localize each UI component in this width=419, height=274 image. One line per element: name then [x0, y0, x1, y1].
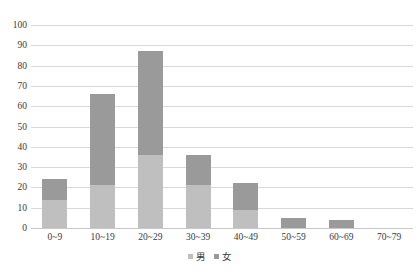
bar-group: [377, 25, 402, 228]
bar-segment-female: [281, 218, 306, 228]
y-axis-tick-label: 0: [0, 223, 27, 233]
y-axis-tick-label: 30: [0, 162, 27, 172]
bar-segment-male: [233, 210, 258, 228]
x-axis-tick-label: 10~19: [79, 231, 127, 243]
x-axis-tick-label: 0~9: [31, 231, 79, 243]
x-axis-tick-label: 20~29: [127, 231, 175, 243]
bar-stack: [329, 220, 354, 228]
bar-segment-male: [90, 185, 115, 228]
bar-group: [186, 25, 211, 228]
y-axis: 1009080706050403020100: [0, 25, 27, 228]
legend-label: 男: [196, 251, 206, 262]
bar-stack: [233, 183, 258, 228]
bar-stack: [138, 51, 163, 228]
bar-group: [42, 25, 67, 228]
bar-segment-female: [186, 155, 211, 185]
y-axis-tick-label: 70: [0, 81, 27, 91]
y-axis-tick-label: 60: [0, 101, 27, 111]
y-axis-tick-label: 80: [0, 61, 27, 71]
bar-segment-female: [138, 51, 163, 155]
plot-area: [31, 25, 413, 228]
x-axis-tick-label: 50~59: [270, 231, 318, 243]
x-axis-tick-label: 30~39: [174, 231, 222, 243]
legend-label: 女: [222, 251, 232, 262]
bar-stack: [281, 218, 306, 228]
bar-segment-male: [138, 155, 163, 228]
y-axis-tick-label: 100: [0, 20, 27, 30]
bar-group: [233, 25, 258, 228]
bar-stack: [90, 94, 115, 228]
bars-layer: [31, 25, 413, 228]
x-axis: 0~910~1920~2930~3940~4950~5960~6970~79: [31, 231, 413, 245]
bar-group: [281, 25, 306, 228]
gridline: [31, 228, 413, 229]
stacked-bar-chart: 1009080706050403020100 0~910~1920~2930~3…: [0, 0, 419, 274]
bar-group: [90, 25, 115, 228]
bar-segment-female: [233, 183, 258, 209]
x-axis-tick-label: 40~49: [222, 231, 270, 243]
legend-item[interactable]: 男: [188, 251, 206, 262]
female-swatch-icon: [214, 254, 219, 259]
legend-item[interactable]: 女: [214, 251, 232, 262]
y-axis-tick-label: 50: [0, 122, 27, 132]
bar-segment-female: [90, 94, 115, 185]
bar-group: [138, 25, 163, 228]
bar-stack: [186, 155, 211, 228]
x-axis-tick-label: 70~79: [365, 231, 413, 243]
y-axis-tick-label: 10: [0, 203, 27, 213]
x-axis-tick-label: 60~69: [318, 231, 366, 243]
bar-group: [329, 25, 354, 228]
y-axis-tick-label: 90: [0, 40, 27, 50]
bar-segment-female: [42, 179, 67, 199]
bar-segment-male: [42, 200, 67, 228]
y-axis-tick-label: 20: [0, 182, 27, 192]
bar-stack: [42, 179, 67, 228]
male-swatch-icon: [188, 254, 193, 259]
bar-segment-female: [329, 220, 354, 228]
bar-segment-male: [186, 185, 211, 228]
chart-legend: 男女: [0, 251, 419, 262]
y-axis-tick-label: 40: [0, 142, 27, 152]
